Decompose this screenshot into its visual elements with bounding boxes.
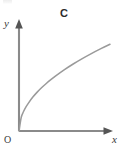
- origin-label: O: [4, 135, 11, 145]
- curve-label: C: [60, 8, 68, 19]
- x-axis-label: x: [112, 134, 117, 145]
- curve-path-c: [19, 44, 110, 131]
- figure-canvas: [0, 0, 122, 147]
- y-axis-label: y: [4, 18, 9, 29]
- curve-figure: y x O C: [0, 0, 122, 147]
- y-axis-arrowhead-icon: [15, 19, 23, 29]
